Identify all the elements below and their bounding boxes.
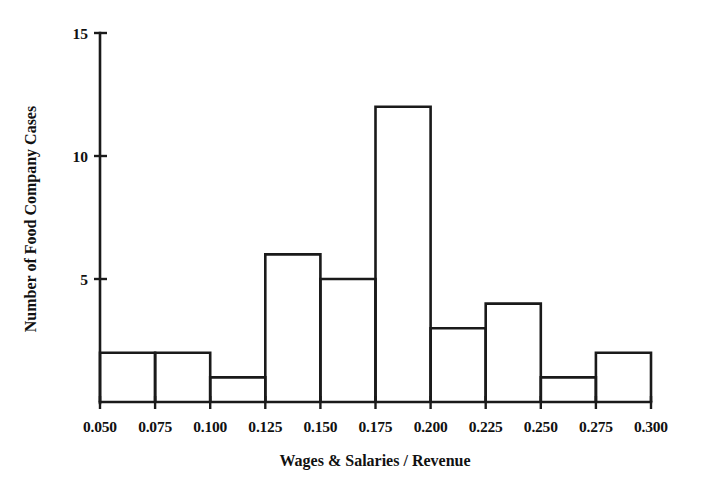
x-tick-label: 0.150 bbox=[303, 418, 337, 435]
x-tick-label: 0.300 bbox=[634, 418, 668, 435]
chart-canvas: 51015 0.0500.0750.1000.1250.1500.1750.20… bbox=[0, 0, 709, 496]
y-tick-label: 15 bbox=[73, 25, 89, 42]
x-tick-label: 0.275 bbox=[579, 418, 613, 435]
y-tick-label: 5 bbox=[80, 271, 88, 288]
y-axis-title: Number of Food Company Cases bbox=[22, 106, 40, 332]
x-tick-label: 0.100 bbox=[193, 418, 227, 435]
x-tick-label: 0.050 bbox=[83, 418, 117, 435]
x-tick-label: 0.225 bbox=[469, 418, 503, 435]
x-tick-label: 0.075 bbox=[138, 418, 172, 435]
histogram-figure: 51015 0.0500.0750.1000.1250.1500.1750.20… bbox=[0, 0, 709, 496]
y-tick-label: 10 bbox=[73, 148, 89, 165]
x-tick-label: 0.175 bbox=[359, 418, 393, 435]
x-tick-label: 0.250 bbox=[524, 418, 558, 435]
x-tick-label: 0.125 bbox=[248, 418, 282, 435]
x-tick-label: 0.200 bbox=[414, 418, 448, 435]
x-axis-title: Wages & Salaries / Revenue bbox=[279, 452, 470, 470]
